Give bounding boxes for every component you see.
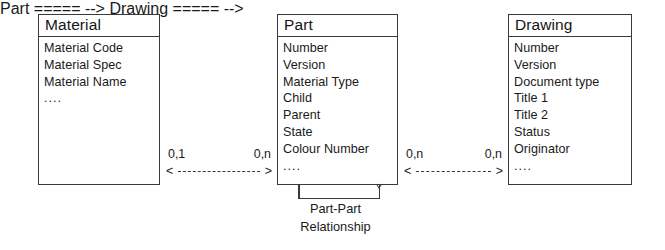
- self-relationship-caption-line-1: Part-Part: [263, 200, 408, 218]
- entity-attribute: Number: [514, 40, 631, 57]
- entity-attribute: Child: [283, 90, 397, 107]
- relationship-connector-line: < >: [398, 164, 508, 180]
- relationship-part-drawing[interactable]: 0,n 0,n < >: [398, 146, 508, 180]
- arrow-right-icon: >: [265, 164, 272, 178]
- entity-attribute: Number: [283, 40, 397, 57]
- cardinality-label-left: 0,1: [168, 146, 185, 162]
- cardinality-row: 0,1 0,n: [160, 146, 277, 162]
- relationship-material-part[interactable]: 0,1 0,n < >: [160, 146, 277, 180]
- cardinality-row: 0,n 0,n: [398, 146, 508, 162]
- dashed-line: [416, 171, 491, 172]
- arrow-left-icon: <: [404, 164, 411, 178]
- entity-attribute: Parent: [283, 107, 397, 124]
- up-arrow-icon: [379, 184, 381, 198]
- entity-attribute: Version: [283, 57, 397, 74]
- bracket-stub: [298, 185, 300, 198]
- entity-box-part[interactable]: Part Number Version Material Type Child …: [277, 14, 398, 185]
- entity-attribute-ellipsis: ....: [44, 90, 159, 107]
- entity-attribute: Material Spec: [44, 57, 159, 74]
- arrow-left-icon: <: [166, 164, 173, 178]
- diagram-canvas: Material Material Code Material Spec Mat…: [0, 0, 665, 250]
- entity-title-material: Material: [39, 15, 159, 37]
- entity-attribute: State: [283, 124, 397, 141]
- relationship-connector-line: < >: [160, 164, 277, 180]
- bracket-horizontal-line: [298, 198, 380, 200]
- self-relationship-bracket-part-part[interactable]: [298, 185, 380, 199]
- cardinality-label-left: 0,n: [406, 146, 423, 162]
- entity-attribute: Originator: [514, 141, 631, 158]
- entity-attribute: Colour Number: [283, 141, 397, 158]
- cardinality-label-right: 0,n: [254, 146, 271, 162]
- entity-attribute: Material Code: [44, 40, 159, 57]
- entity-attribute: Material Type: [283, 74, 397, 91]
- cardinality-label-right: 0,n: [485, 146, 502, 162]
- entity-attribute: Version: [514, 57, 631, 74]
- self-relationship-caption-line-2: Relationship: [263, 218, 408, 236]
- entity-title-drawing: Drawing: [509, 15, 631, 37]
- entity-attribute: Title 1: [514, 90, 631, 107]
- entity-attribute-ellipsis: ....: [283, 158, 397, 175]
- self-relationship-caption: Part-Part Relationship: [263, 200, 408, 235]
- entity-attribute-list-material: Material Code Material Spec Material Nam…: [39, 37, 159, 107]
- dashed-line: [178, 171, 260, 172]
- entity-attribute-list-drawing: Number Version Document type Title 1 Tit…: [509, 37, 631, 174]
- entity-attribute: Title 2: [514, 107, 631, 124]
- entity-attribute-list-part: Number Version Material Type Child Paren…: [278, 37, 397, 174]
- entity-title-part: Part: [278, 15, 397, 37]
- entity-attribute: Material Name: [44, 74, 159, 91]
- entity-box-drawing[interactable]: Drawing Number Version Document type Tit…: [508, 14, 632, 185]
- entity-attribute: Status: [514, 124, 631, 141]
- entity-attribute-ellipsis: ....: [514, 158, 631, 175]
- entity-attribute: Document type: [514, 74, 631, 91]
- arrow-right-icon: >: [496, 164, 503, 178]
- entity-box-material[interactable]: Material Material Code Material Spec Mat…: [38, 14, 160, 185]
